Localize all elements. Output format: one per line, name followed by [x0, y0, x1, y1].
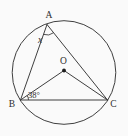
label-center-O: O — [60, 56, 67, 66]
label-angle-x: x — [37, 35, 43, 45]
label-point-A: A — [46, 10, 53, 20]
chord-AC — [47, 25, 108, 101]
label-angle-38: 38° — [28, 90, 40, 100]
circle-outline — [12, 21, 116, 125]
label-point-B: B — [9, 99, 15, 109]
center-dot — [62, 69, 66, 73]
label-point-C: C — [110, 99, 116, 109]
geometry-figure-svg: ABCOx38° — [0, 0, 128, 136]
radius-OC — [64, 71, 108, 101]
geometry-diagram: ABCOx38° — [0, 0, 128, 136]
angle-arc-at-A — [44, 33, 54, 35]
